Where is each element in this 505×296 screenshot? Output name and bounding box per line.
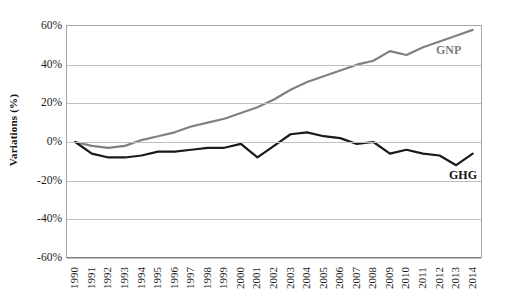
- plot-area: [66, 25, 482, 258]
- x-axis-tick-labels: 1990199119921993199419951996199719981999…: [66, 258, 481, 296]
- chart-screenshot: Variations (%) 60%40%20%0%-20%-40%-60% 1…: [0, 0, 505, 296]
- plot-inner: [67, 26, 481, 258]
- y-tick-label: -40%: [18, 212, 62, 224]
- series-line-gnp: [75, 30, 472, 148]
- y-tick-label: 0%: [18, 135, 62, 147]
- x-tick-label-text: 2014: [466, 267, 478, 289]
- x-tick-label: 2014: [453, 258, 491, 296]
- y-tick-label: 40%: [18, 58, 62, 70]
- gridline: [67, 142, 481, 143]
- gridline: [67, 103, 481, 104]
- series-label-ghg: GHG: [449, 168, 477, 183]
- gridline: [67, 65, 481, 66]
- y-tick-label: 60%: [18, 19, 62, 31]
- y-tick-label: 20%: [18, 96, 62, 108]
- y-axis-tick-labels: 60%40%20%0%-20%-40%-60%: [18, 0, 62, 296]
- series-label-gnp: GNP: [436, 43, 461, 58]
- series-line-ghg: [75, 132, 472, 165]
- y-tick-label: -20%: [18, 174, 62, 186]
- gridline: [67, 181, 481, 182]
- gridline: [67, 219, 481, 220]
